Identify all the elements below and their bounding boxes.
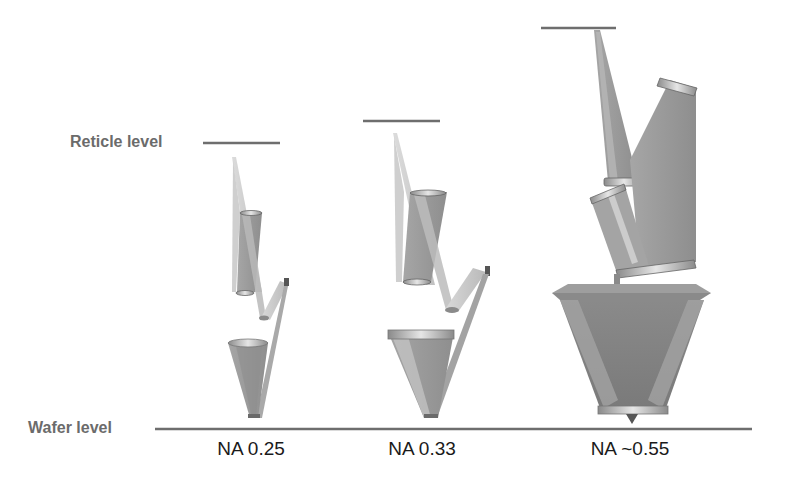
na-label-1: NA 0.33 — [352, 438, 492, 460]
optics-na025 — [228, 157, 289, 418]
reticle-level-label: Reticle level — [70, 133, 163, 151]
wafer-level-label: Wafer level — [28, 419, 112, 437]
euv-optics-diagram: Reticle level Wafer level NA 0.25 NA 0.3… — [0, 0, 790, 484]
na-label-0: NA 0.25 — [181, 438, 321, 460]
optics-na033 — [388, 133, 490, 418]
optics-drawing — [0, 0, 790, 484]
na-label-2: NA ~0.55 — [560, 438, 700, 460]
optics-na055 — [552, 30, 711, 424]
